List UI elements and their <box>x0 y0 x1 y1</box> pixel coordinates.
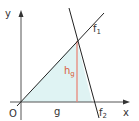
base-label: g <box>54 106 60 117</box>
y-axis-arrow-icon <box>19 10 24 17</box>
origin-label: O <box>9 108 17 119</box>
y-axis-label: y <box>5 8 11 19</box>
f2-label: f2 <box>99 107 107 120</box>
triangle-diagram: y x O g f1 f2 hg <box>0 0 139 121</box>
f1-label: f1 <box>93 23 101 36</box>
x-axis-label: x <box>123 107 129 118</box>
triangle-area <box>21 41 92 102</box>
x-axis-arrow-icon <box>123 100 130 105</box>
